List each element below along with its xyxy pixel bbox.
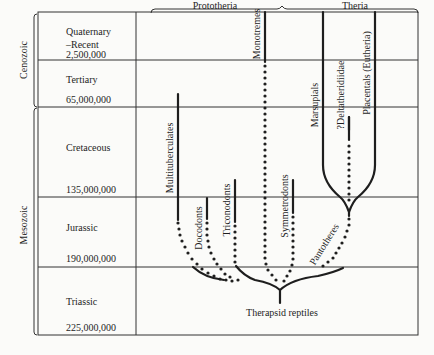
group-label-prototheria: Prototheria — [193, 0, 238, 11]
period-tertiary-name: Tertiary — [66, 74, 98, 85]
label-triconodonts: Triconodonts — [221, 183, 232, 236]
era-brace-cenozoic — [34, 14, 37, 107]
mammal-phylogeny-diagram: Prototheria Theria Cenozoic Mesozoic Qua… — [0, 0, 434, 355]
label-docodonts: Docodonts — [193, 206, 204, 249]
label-therapsid-reptiles: Therapsid reptiles — [246, 307, 318, 318]
period-labels: Quaternary –Recent 2,500,000 Tertiary 65… — [65, 26, 116, 333]
era-brace-mesozoic — [34, 108, 37, 335]
period-quaternary-name: Quaternary — [66, 26, 111, 37]
label-pantotheres: Pantotheres — [307, 221, 341, 266]
period-tertiary-age: 65,000,000 — [66, 94, 111, 105]
label-symmetrodonts: Symmetrodonts — [279, 174, 290, 237]
period-triassic-age: 225,000,000 — [66, 322, 116, 333]
period-cretaceous-age: 135,000,000 — [66, 184, 116, 195]
deltatheridiidae-dots — [347, 144, 350, 201]
label-placentals: Placentals (Eutheria) — [361, 31, 373, 115]
group-label-theria: Theria — [342, 0, 369, 11]
period-triassic-name: Triassic — [66, 296, 98, 307]
label-monotremes: Monotremes — [251, 9, 262, 60]
label-marsupials: Marsupials — [309, 83, 320, 128]
triconodonts-dots — [233, 224, 236, 263]
period-jurassic-age: 190,000,000 — [66, 253, 116, 264]
root-branch-mid — [236, 266, 280, 290]
period-jurassic-name: Jurassic — [66, 222, 98, 233]
era-label-mesozoic: Mesozoic — [18, 205, 29, 244]
label-deltatheridiidae: ?Deltatheridiidae — [335, 60, 346, 129]
label-multituberculates: Multituberculates — [164, 123, 175, 194]
period-quaternary-age: 2,500,000 — [66, 49, 106, 60]
era-label-cenozoic: Cenozoic — [18, 41, 29, 79]
period-cretaceous-name: Cretaceous — [66, 142, 111, 153]
monotremes-dots — [263, 64, 277, 281]
